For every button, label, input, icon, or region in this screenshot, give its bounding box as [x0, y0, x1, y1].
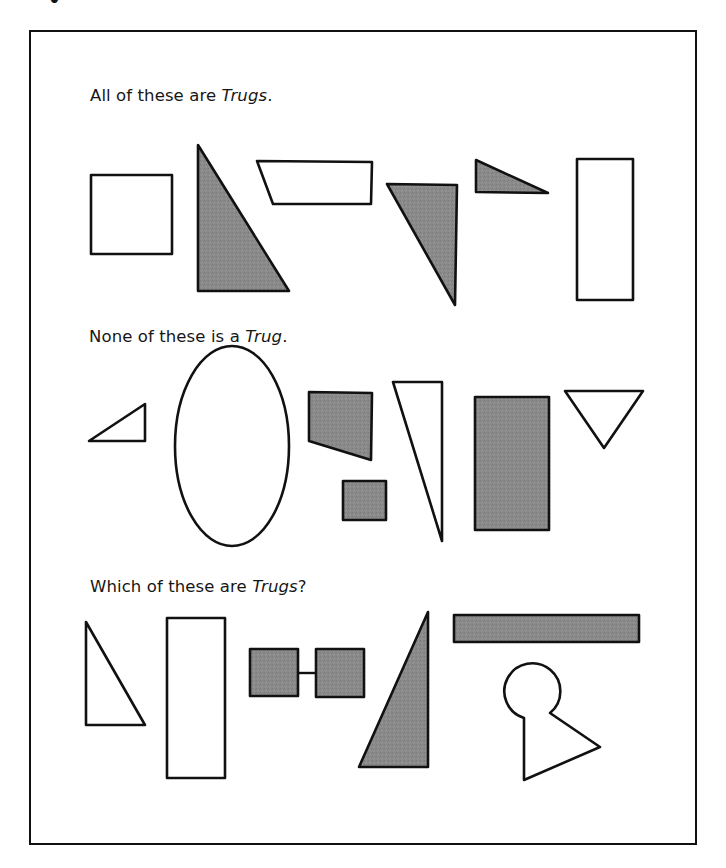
shape-rectangle-grey [475, 397, 549, 530]
shape-quadrilateral-grey [309, 392, 372, 460]
row-trugs [91, 145, 633, 305]
shape-ellipse [175, 346, 289, 546]
shape-tall-rectangle [577, 159, 633, 300]
row-question [86, 612, 639, 780]
textbook-page: • All of these are Trugs. None of these … [0, 0, 726, 868]
shape-small-triangle [89, 404, 145, 441]
linked-square-right [316, 649, 364, 697]
row-non-trugs [89, 346, 643, 546]
shape-long-bar-grey [454, 615, 639, 642]
shape-linked-squares [250, 649, 364, 697]
shape-right-triangle-white [86, 622, 145, 725]
shape-tall-rectangle-white [167, 618, 225, 778]
shape-small-triangle-grey [476, 160, 548, 193]
shape-square [91, 175, 172, 254]
shape-parallelogram [257, 161, 372, 204]
shape-right-triangle-grey [359, 612, 428, 767]
shape-small-square-grey [343, 481, 386, 520]
shape-inverted-triangle-grey [387, 184, 457, 305]
shapes-canvas [0, 0, 726, 868]
linked-square-left [250, 649, 298, 696]
shape-thin-triangle [393, 382, 442, 541]
shape-keyhole [504, 663, 600, 780]
shape-inverted-triangle [565, 391, 643, 448]
